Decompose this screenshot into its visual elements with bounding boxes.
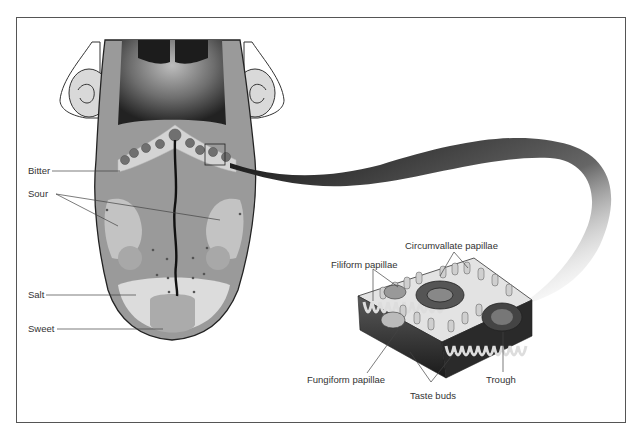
label-filiform-papillae: Filiform papillae [331, 260, 398, 270]
label-bitter: Bitter [28, 166, 50, 176]
label-trough: Trough [486, 375, 516, 385]
label-fungiform-papillae: Fungiform papillae [307, 375, 385, 385]
label-sour: Sour [28, 189, 48, 199]
sweet-region [150, 294, 195, 333]
label-salt: Salt [28, 290, 44, 300]
papillae-cross-section [358, 258, 532, 378]
label-sweet: Sweet [28, 324, 54, 334]
label-taste-buds: Taste buds [410, 391, 456, 401]
label-circumvallate-papillae: Circumvallate papillae [405, 241, 498, 251]
